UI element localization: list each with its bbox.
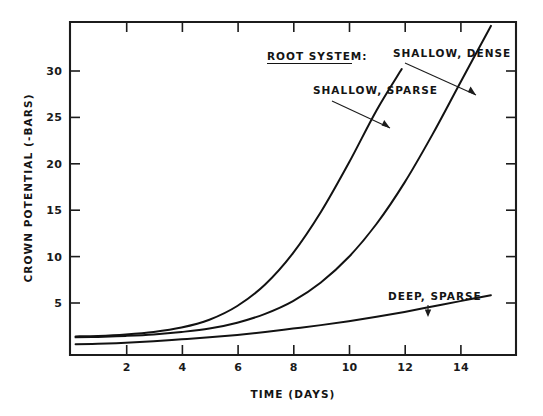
y-tick-label-30: 30 — [46, 65, 62, 78]
x-tick-label-10: 10 — [342, 361, 358, 374]
chart-figure: 30 25 20 15 10 5 2 4 6 — [0, 0, 543, 416]
y-tick-label-15: 15 — [46, 204, 62, 217]
crown-potential-line-chart: 30 25 20 15 10 5 2 4 6 — [0, 0, 543, 416]
x-tick-label-14: 14 — [453, 361, 469, 374]
y-tick-label-10: 10 — [46, 251, 62, 264]
y-tick-label-25: 25 — [46, 111, 62, 124]
x-tick-label-2: 2 — [123, 361, 131, 374]
annotation-shallow-dense-label: SHALLOW, DENSE — [393, 47, 511, 59]
annotation-deep-sparse-label: DEEP, SPARSE — [388, 290, 482, 302]
x-tick-label-4: 4 — [178, 361, 186, 374]
y-tick-label-5: 5 — [54, 297, 62, 310]
annotation-shallow-sparse-label: SHALLOW, SPARSE — [313, 84, 438, 96]
annotation-root-system-heading: ROOT SYSTEM: — [267, 50, 367, 62]
x-axis-title: TIME (DAYS) — [250, 388, 335, 400]
y-axis-title: CROWN POTENTIAL (-BARS) — [22, 93, 34, 282]
x-tick-label-12: 12 — [397, 361, 413, 374]
x-tick-label-8: 8 — [290, 361, 298, 374]
x-tick-label-6: 6 — [234, 361, 242, 374]
y-tick-label-20: 20 — [46, 158, 62, 171]
